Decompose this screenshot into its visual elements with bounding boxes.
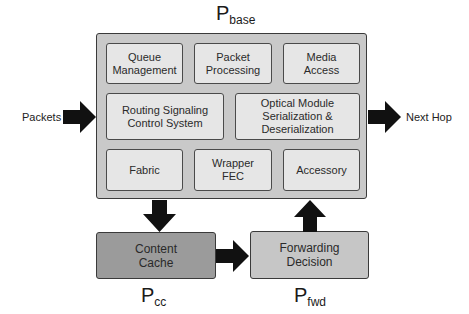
down-arrow-icon (143, 200, 177, 232)
module-packet-processing: Packet Processing (194, 43, 272, 84)
module-optical-serdes: Optical Module Serialization & Deseriali… (235, 93, 360, 140)
up-arrow-icon (294, 200, 326, 232)
right-arrow-icon (216, 240, 250, 272)
content-cache-block: Content Cache (96, 232, 216, 279)
p-cc-main: P (141, 284, 154, 306)
forwarding-decision-block: Forwarding Decision (250, 231, 369, 279)
module-accessory: Accessory (283, 149, 360, 191)
p-base-sub: base (229, 13, 255, 27)
module-media-access: Media Access (283, 43, 360, 84)
output-arrow-icon (368, 101, 402, 133)
module-routing-signaling-control: Routing Signaling Control System (106, 93, 224, 140)
module-queue-management: Queue Management (106, 43, 183, 84)
p-base-main: P (216, 2, 229, 24)
p-fwd-label: Pfwd (294, 284, 326, 309)
p-cc-label: Pcc (141, 284, 166, 309)
next-hop-label: Next Hop (406, 111, 452, 123)
p-base-label: Pbase (216, 2, 255, 27)
module-wrapper-fec: Wrapper FEC (194, 149, 272, 191)
p-cc-sub: cc (154, 295, 166, 309)
input-arrow-icon (63, 101, 97, 133)
module-fabric: Fabric (106, 149, 183, 191)
p-fwd-main: P (294, 284, 307, 306)
p-fwd-sub: fwd (307, 295, 326, 309)
packets-label: Packets (22, 111, 61, 123)
